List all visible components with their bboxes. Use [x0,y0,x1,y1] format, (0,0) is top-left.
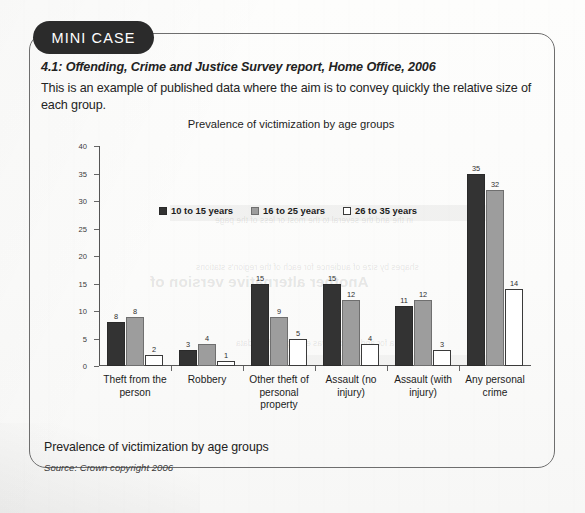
x-category-label: Robbery [171,374,243,387]
bar-value-label: 4 [368,334,372,343]
legend-label: 26 to 35 years [355,205,417,216]
bar: 4 [198,344,216,366]
x-category-label: Other theft of personal property [243,374,315,412]
x-tick-mark [315,366,316,371]
bar: 4 [361,344,379,366]
bar-value-label: 5 [296,329,300,338]
x-tick-mark [459,366,460,371]
bar-value-label: 4 [205,334,209,343]
y-tick-label: 5 [83,334,87,343]
x-category-label: Assault (with injury) [387,374,459,399]
legend-item: 26 to 35 years [343,205,417,216]
bar-value-label: 8 [114,312,118,321]
case-subtitle: 4.1: Offending, Crime and Justice Survey… [41,60,436,74]
y-tick-label: 30 [79,197,87,206]
y-tick-mark [94,256,99,257]
y-tick-mark [94,366,99,367]
bar-value-label: 12 [419,290,427,299]
case-body-text: This is an example of published data whe… [41,80,546,114]
bar: 3 [179,350,197,367]
bar: 14 [505,289,523,366]
bar: 8 [107,322,125,366]
plot-area: 0510152025303540 88234115951512411123353… [99,146,531,366]
y-tick-label: 20 [79,252,87,261]
bar-value-label: 9 [277,307,281,316]
bar-value-label: 14 [510,279,518,288]
bar: 11 [395,306,413,367]
y-axis-title: Percent victimized once or more [0,152,1,303]
legend-label: 10 to 15 years [171,205,233,216]
bar-value-label: 3 [186,340,190,349]
bar-value-label: 12 [347,290,355,299]
legend-label: 16 to 25 years [263,205,325,216]
y-tick-mark [94,201,99,202]
bar-value-label: 32 [491,180,499,189]
bar-group: 11123 [395,146,451,366]
mini-case-badge: MINI CASE [33,21,154,54]
bar-group: 15124 [323,146,379,366]
x-tick-mark [243,366,244,371]
figure-caption: Prevalence of victimization by age group… [44,440,269,454]
bar: 5 [289,339,307,367]
bar-value-label: 1 [224,351,228,360]
bar: 9 [270,317,288,367]
legend-item: 10 to 15 years [159,205,233,216]
y-tick-mark [94,174,99,175]
bar: 12 [342,300,360,366]
x-tick-mark [387,366,388,371]
y-tick-label: 10 [79,307,87,316]
bar-value-label: 15 [328,274,336,283]
y-tick-label: 35 [79,169,87,178]
chart-title: Prevalence of victimization by age group… [41,118,541,130]
bar-value-label: 35 [472,164,480,173]
legend-swatch-icon [343,207,351,215]
y-tick-mark [94,311,99,312]
bar: 32 [486,190,504,366]
bar-value-label: 2 [152,345,156,354]
y-tick-label: 0 [83,362,87,371]
y-tick-mark [94,229,99,230]
bar: 35 [467,174,485,367]
bar-group: 341 [179,146,235,366]
bar: 12 [414,300,432,366]
x-tick-mark [171,366,172,371]
bar: 1 [217,361,235,367]
figure-source: Source: Crown copyright 2006 [44,462,173,473]
bar: 15 [251,284,269,367]
bar-value-label: 15 [256,274,264,283]
legend-swatch-icon [251,207,259,215]
y-tick-label: 25 [79,224,87,233]
y-tick-mark [94,146,99,147]
bar: 15 [323,284,341,367]
y-tick-mark [94,284,99,285]
bar: 3 [433,350,451,367]
bar-value-label: 11 [400,296,408,305]
y-tick-label: 40 [79,142,87,151]
y-axis-line [99,146,100,366]
y-tick-mark [94,339,99,340]
bar-group: 882 [107,146,163,366]
bar-value-label: 8 [133,307,137,316]
x-category-label: Theft from the person [99,374,171,399]
y-tick-label: 15 [79,279,87,288]
bar-group: 353214 [467,146,523,366]
bar: 8 [126,317,144,367]
chart-legend: 10 to 15 years16 to 25 years26 to 35 yea… [159,205,417,216]
bar: 2 [145,355,163,366]
bar-value-label: 3 [440,340,444,349]
x-category-label: Any personal crime [459,374,531,399]
legend-item: 16 to 25 years [251,205,325,216]
bar-group: 1595 [251,146,307,366]
chart: Prevalence of victimization by age group… [41,118,541,438]
x-category-label: Assault (no injury) [315,374,387,399]
legend-swatch-icon [159,207,167,215]
